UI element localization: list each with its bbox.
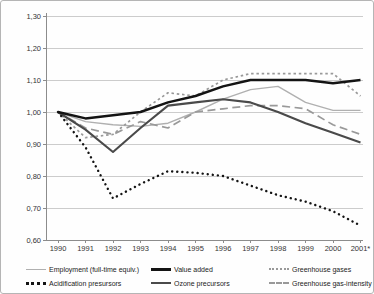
x-axis-label: 1990 [45, 244, 71, 253]
x-axis-label: 1996 [210, 244, 236, 253]
legend-label-ozone-precursors: Ozone precursors [174, 279, 230, 288]
y-axis-label: 0,90 [15, 140, 41, 149]
acidification-precursors-line-sample-icon [26, 282, 46, 285]
legend-item-acidification-precursors: Acidification presursors [26, 278, 121, 288]
x-axis-label: 1993 [128, 244, 154, 253]
x-axis-label: 1997 [238, 244, 264, 253]
legend-label-acidification-precursors: Acidification presursors [49, 279, 121, 288]
legend-item-employment: Employment (full-time equiv.) [26, 264, 139, 274]
chart-figure: 1,301,201,101,000,900,800,700,60 1990199… [0, 0, 374, 294]
acidification-precursors-line [58, 112, 361, 226]
ozone-precursors-line-sample-icon [151, 282, 171, 284]
x-axis-label: 1995 [183, 244, 209, 253]
legend-label-value-added: Value added [174, 265, 213, 274]
y-axis-label: 1,00 [15, 108, 41, 117]
x-axis-label: 2001* [348, 244, 374, 253]
x-axis-label: 1994 [155, 244, 181, 253]
legend-item-value-added: Value added [151, 264, 213, 274]
y-axis-label: 0,60 [15, 236, 41, 245]
greenhouse-gases-line-sample-icon [269, 268, 289, 270]
x-axis-label: 1991 [73, 244, 99, 253]
y-axis-label: 1,20 [15, 44, 41, 53]
legend-label-greenhouse-gases: Greenhouse gases [292, 265, 351, 274]
greenhouse-gas-intensity-line-sample-icon [269, 282, 289, 284]
y-axis-label: 1,30 [15, 12, 41, 21]
y-axis-label: 0,80 [15, 172, 41, 181]
x-axis-label: 1999 [293, 244, 319, 253]
y-axis-label: 0,70 [15, 204, 41, 213]
value-added-line [58, 80, 361, 118]
x-axis-label: 1998 [265, 244, 291, 253]
employment-line-sample-icon [26, 269, 46, 270]
legend-item-greenhouse-gases: Greenhouse gases [269, 264, 351, 274]
x-axis-label: 1992 [100, 244, 126, 253]
legend-item-greenhouse-gas-intensity: Greenhouse gas-intensity [269, 278, 372, 288]
y-axis-label: 1,10 [15, 76, 41, 85]
legend-label-employment: Employment (full-time equiv.) [49, 265, 139, 274]
legend-item-ozone-precursors: Ozone precursors [151, 278, 230, 288]
legend-label-greenhouse-gas-intensity: Greenhouse gas-intensity [292, 279, 372, 288]
value-added-line-sample-icon [151, 268, 171, 271]
greenhouse-gas-intensity-line [58, 106, 361, 135]
x-axis-label: 2000 [320, 244, 346, 253]
